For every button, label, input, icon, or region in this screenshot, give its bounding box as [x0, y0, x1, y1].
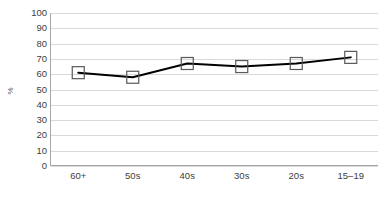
y-axis-tick-label: 40 — [14, 100, 47, 110]
y-axis-tick-label: 90 — [14, 24, 47, 34]
y-axis-tick-label: 70 — [14, 54, 47, 64]
x-axis-tick-label: 50s — [125, 170, 140, 182]
y-axis-tick-label: 10 — [14, 146, 47, 156]
x-axis-tick-label: 20s — [289, 170, 304, 182]
x-axis-tick-label: 15–19 — [338, 170, 364, 182]
y-axis-tick-label: 0 — [14, 161, 47, 171]
y-axis-tick-label: 80 — [14, 39, 47, 49]
x-axis-tick-label: 60+ — [70, 170, 86, 182]
series-line — [78, 57, 351, 77]
data-point-marker — [290, 57, 302, 69]
plot-area — [51, 13, 378, 166]
y-axis-tick-label: 60 — [14, 69, 47, 79]
y-axis-tick-label: 50 — [14, 85, 47, 95]
x-axis-tick-label: 30s — [234, 170, 249, 182]
data-series-layer — [51, 13, 378, 166]
data-point-marker — [181, 57, 193, 69]
data-point-marker — [236, 61, 248, 73]
gridline — [51, 166, 378, 167]
data-point-marker — [345, 51, 357, 63]
y-axis-tick-label: 20 — [14, 131, 47, 141]
data-point-marker — [72, 67, 84, 79]
line-chart: % 0102030405060708090100 60+50s40s30s20s… — [0, 0, 389, 201]
y-axis-tick-label: 30 — [14, 115, 47, 125]
x-axis-tick-labels: 60+50s40s30s20s15–19 — [51, 170, 378, 188]
y-axis-tick-label: 100 — [14, 8, 47, 18]
y-axis-tick-labels: 0102030405060708090100 — [14, 13, 47, 166]
x-axis-tick-label: 40s — [180, 170, 195, 182]
data-point-marker — [127, 71, 139, 83]
